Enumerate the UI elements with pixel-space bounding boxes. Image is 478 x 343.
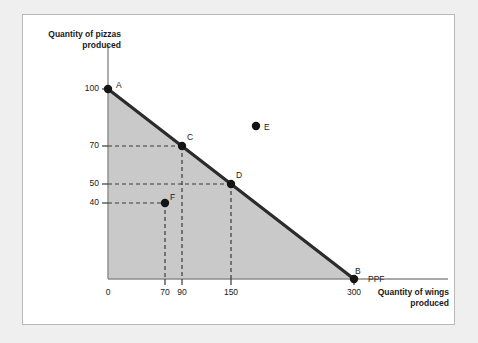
ppf-curve-label: PPF [368,274,385,284]
point-f [161,199,169,207]
x-tick-label-150: 150 [216,287,246,297]
point-a [104,85,112,93]
point-label-e: E [264,122,270,132]
x-tick-label-0: 0 [93,287,123,297]
point-b [350,275,358,283]
point-e [252,122,260,130]
y-tick-label-100: 100 [73,83,99,93]
point-label-c: C [187,132,193,142]
figure-panel: Quantity of pizzas produced Quantity of … [22,14,455,325]
y-axis-title: Quantity of pizzas produced [35,29,121,51]
point-label-a: A [116,80,122,90]
y-tick-label-40: 40 [73,197,99,207]
x-tick-label-300: 300 [339,287,369,297]
point-d [227,180,235,188]
point-label-d: D [236,170,242,180]
point-label-b: B [355,266,361,276]
x-axis-title: Quantity of wings produced [361,287,449,309]
x-tick-label-90: 90 [167,287,197,297]
y-tick-label-70: 70 [73,140,99,150]
x-axis-ticks [165,279,354,285]
y-axis-ticks [102,89,108,203]
y-tick-label-50: 50 [73,178,99,188]
point-label-f: F [170,192,175,202]
point-c [178,142,186,150]
